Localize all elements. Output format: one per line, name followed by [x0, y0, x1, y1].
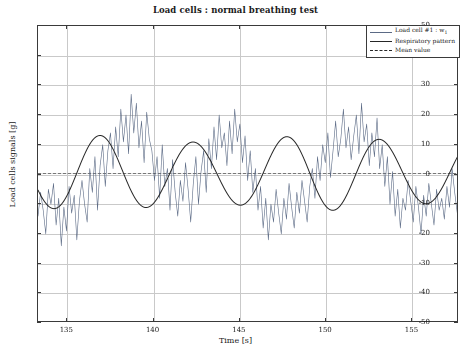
y-tick-label: 10 [421, 140, 430, 148]
y-tick-mark [454, 263, 458, 264]
chart-legend: Load cell #1 : w1 Respiratory pattern Me… [366, 25, 460, 58]
x-tick-mark [325, 25, 326, 29]
y-tick-mark [37, 84, 41, 85]
data-canvas [38, 26, 458, 322]
y-tick-mark [37, 233, 41, 234]
y-tick-mark [37, 174, 41, 175]
legend-swatch-line-icon [370, 28, 392, 36]
y-tick-mark [37, 292, 41, 293]
y-tick-mark [37, 25, 41, 26]
x-tick-mark [66, 25, 67, 29]
y-tick-label: 20 [421, 110, 430, 118]
legend-item-mean: Mean value [370, 46, 456, 54]
y-tick-label: -20 [419, 229, 430, 237]
chart-title: Load cells : normal breathing test [0, 5, 471, 15]
y-tick-mark [454, 292, 458, 293]
y-tick-mark [37, 322, 41, 323]
x-tick-label: 155 [405, 326, 418, 334]
x-tick-label: 150 [318, 326, 331, 334]
y-tick-mark [454, 144, 458, 145]
x-tick-mark [411, 318, 412, 322]
y-tick-mark [454, 84, 458, 85]
x-tick-mark [66, 318, 67, 322]
y-tick-mark [37, 144, 41, 145]
x-tick-mark [325, 318, 326, 322]
legend-label-load-cell: Load cell #1 : w1 [395, 26, 447, 37]
y-tick-label: -30 [419, 259, 430, 267]
x-tick-label: 135 [60, 326, 73, 334]
y-tick-label: 30 [421, 80, 430, 88]
y-tick-mark [37, 203, 41, 204]
y-tick-label: -50 [419, 318, 430, 326]
y-tick-mark [37, 55, 41, 56]
x-tick-mark [239, 318, 240, 322]
y-tick-label: -40 [419, 288, 430, 296]
legend-item-load-cell: Load cell #1 : w1 [370, 28, 456, 36]
legend-swatch-line-icon [370, 37, 392, 45]
y-tick-mark [454, 203, 458, 204]
y-tick-mark [37, 114, 41, 115]
y-tick-mark [454, 114, 458, 115]
y-tick-mark [454, 322, 458, 323]
x-tick-label: 140 [146, 326, 159, 334]
y-axis-title: Load cells signals [g] [8, 85, 17, 245]
plot-area [37, 25, 458, 322]
legend-item-respiratory: Respiratory pattern [370, 37, 456, 45]
legend-label-mean: Mean value [395, 46, 430, 54]
y-tick-label: -10 [419, 199, 430, 207]
legend-label-respiratory: Respiratory pattern [395, 37, 455, 45]
legend-swatch-dashed-icon [370, 46, 392, 54]
y-tick-mark [37, 263, 41, 264]
x-tick-mark [153, 318, 154, 322]
y-tick-label: 0 [426, 170, 430, 178]
x-tick-mark [153, 25, 154, 29]
x-tick-label: 145 [232, 326, 245, 334]
y-tick-mark [454, 233, 458, 234]
x-tick-mark [239, 25, 240, 29]
y-tick-mark [454, 174, 458, 175]
x-axis-title: Time [s] [0, 336, 471, 345]
figure: Load cells : normal breathing test Load … [0, 0, 471, 355]
